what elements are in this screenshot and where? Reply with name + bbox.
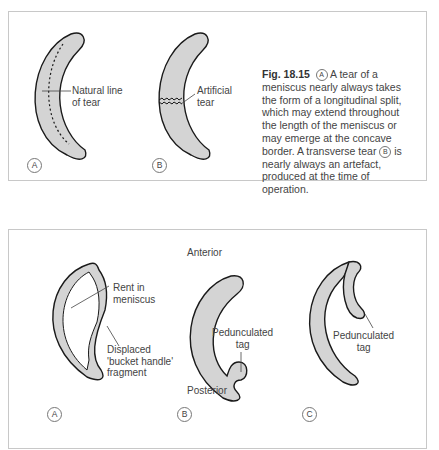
label-rent-in-meniscus: Rent inmeniscus	[113, 282, 155, 305]
caption-marker-b: B	[379, 146, 391, 158]
figure-caption: Fig. 18.15 A A tear of a meniscus nearly…	[262, 68, 412, 196]
label-pedunculated-tag-c: Pedunculatedtag	[333, 330, 394, 353]
figure-number: Fig. 18.15	[262, 68, 310, 80]
label-natural-line-of-tear: Natural lineof tear	[72, 85, 123, 108]
panel-label-c: C	[302, 407, 317, 422]
label-anterior: Anterior	[187, 247, 222, 259]
bucket-handle-tear-panel: Rent inmeniscus Displaced'bucket handle'…	[8, 229, 427, 449]
caption-marker-a: A	[316, 69, 328, 81]
label-bucket-handle-fragment: Displaced'bucket handle'fragment	[107, 344, 173, 379]
panel-label-b: B	[177, 407, 192, 422]
label-pedunculated-tag-b: Pedunculatedtag	[212, 327, 273, 350]
panel-label-b: B	[152, 158, 167, 173]
panel-label-a: A	[47, 407, 62, 422]
panel-label-a: A	[27, 158, 42, 173]
label-posterior: Posterior	[187, 385, 227, 397]
label-artificial-tear: Artificialtear	[197, 85, 232, 108]
